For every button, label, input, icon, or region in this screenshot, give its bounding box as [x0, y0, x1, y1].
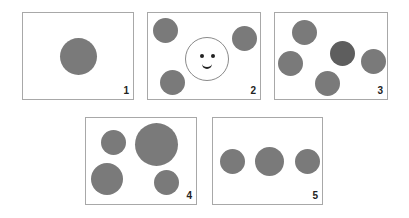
circle	[220, 149, 245, 174]
panel-4: 4	[85, 117, 197, 205]
circle	[361, 49, 386, 74]
panel-number: 4	[186, 190, 192, 201]
circle	[295, 149, 320, 174]
right-eye	[211, 54, 215, 58]
panel-1: 1	[22, 12, 134, 100]
circle	[60, 38, 97, 75]
circle	[232, 26, 257, 51]
circle-large	[135, 123, 178, 166]
circle	[101, 130, 126, 155]
circle	[278, 51, 303, 76]
mouth	[202, 64, 212, 69]
panel-3: 3	[274, 12, 388, 100]
panel-2: 2	[147, 12, 261, 100]
circle	[160, 70, 185, 95]
panel-number: 3	[377, 85, 383, 96]
circle-medium	[255, 147, 284, 176]
circle	[153, 18, 178, 43]
panel-number: 1	[123, 85, 129, 96]
circle	[315, 71, 340, 96]
circle	[292, 20, 317, 45]
panel-number: 2	[250, 85, 256, 96]
smiley-face-icon	[185, 37, 229, 81]
circle	[91, 163, 123, 195]
circle	[154, 170, 179, 195]
panel-5: 5	[212, 117, 323, 205]
panel-number: 5	[312, 190, 318, 201]
left-eye	[200, 54, 204, 58]
circle-dark	[330, 41, 355, 66]
